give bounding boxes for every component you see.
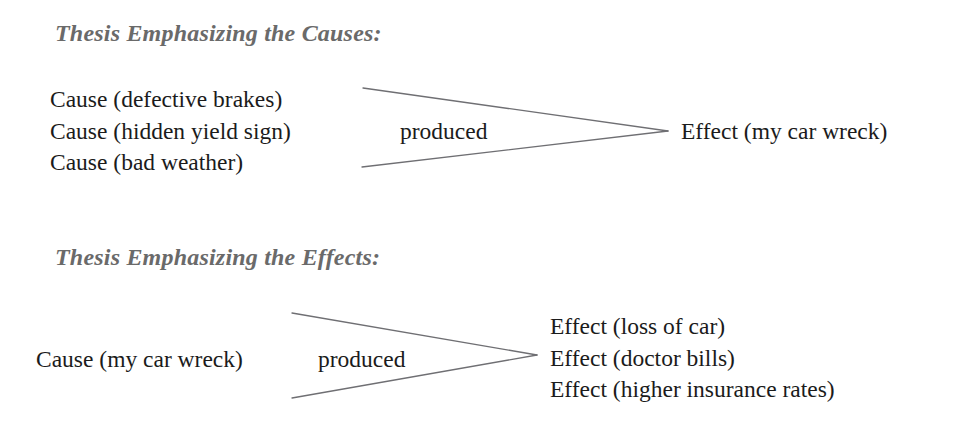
- diagram-2-heading: Thesis Emphasizing the Effects:: [55, 244, 380, 271]
- list-item: Effect (higher insurance rates): [550, 374, 835, 406]
- list-item: Effect (loss of car): [550, 311, 835, 343]
- diagram-2-cause-item: Cause (my car wreck): [36, 344, 243, 375]
- diagram-2-effect-list: Effect (loss of car) Effect (doctor bill…: [550, 311, 835, 406]
- cause-effect-diagram-page: Thesis Emphasizing the Causes: Cause (de…: [0, 0, 963, 427]
- list-item: Effect (doctor bills): [550, 343, 835, 375]
- diagram-1-heading: Thesis Emphasizing the Causes:: [55, 20, 382, 47]
- diagram-1-effect-item: Effect (my car wreck): [681, 116, 887, 147]
- diagram-1-cause-list: Cause (defective brakes) Cause (hidden y…: [50, 84, 291, 179]
- list-item: Cause (hidden yield sign): [50, 116, 291, 148]
- list-item: Cause (bad weather): [50, 147, 291, 179]
- diagram-1-connector-label: produced: [400, 116, 487, 147]
- list-item: Cause (defective brakes): [50, 84, 291, 116]
- diagram-2-connector-label: produced: [318, 344, 405, 375]
